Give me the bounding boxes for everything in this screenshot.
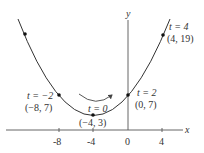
coord-label: (−8, 7) xyxy=(25,102,52,114)
point-t-minus-4 xyxy=(23,32,27,36)
y-axis-label: y xyxy=(125,8,131,19)
point-t-2 xyxy=(126,93,130,97)
x-tick-label: -4 xyxy=(87,136,95,147)
point-t-4 xyxy=(161,33,165,37)
x-tick-label: 0 xyxy=(125,136,130,147)
coord-label: (−4, 3) xyxy=(79,117,106,129)
parametric-diagram: y x -8 -4 0 4 t = −2 (−8, 7) t = 0 (−4, … xyxy=(0,0,204,153)
point-t-minus-2 xyxy=(57,93,61,97)
coord-label: (0, 7) xyxy=(135,99,157,111)
x-tick-label: 4 xyxy=(159,136,164,147)
x-tick-label: -8 xyxy=(53,136,61,147)
direction-arrow-icon xyxy=(79,94,112,101)
t-label: t = 2 xyxy=(137,87,157,98)
coord-label: (4, 19) xyxy=(167,33,194,45)
x-axis-label: x xyxy=(184,124,190,135)
t-label: t = 4 xyxy=(169,21,189,32)
t-label: t = −2 xyxy=(27,90,53,101)
t-label: t = 0 xyxy=(88,103,108,114)
